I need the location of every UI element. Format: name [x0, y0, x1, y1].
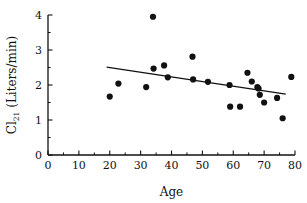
data-point — [161, 62, 167, 68]
data-point — [280, 115, 286, 121]
data-point — [237, 104, 243, 110]
plot-canvas: 0102030405060708001234AgeCl21 (Liters/mi… — [0, 0, 307, 203]
x-tick-label-0: 0 — [45, 159, 52, 172]
x-tick-label-50: 50 — [195, 159, 209, 172]
y-tick-label-4: 4 — [35, 9, 42, 22]
x-tick-label-10: 10 — [72, 159, 86, 172]
data-point — [190, 76, 196, 82]
data-point — [244, 70, 250, 76]
x-tick-label-60: 60 — [226, 159, 240, 172]
data-point — [257, 92, 263, 98]
data-point — [288, 74, 294, 80]
y-axis-label: Cl21 (Liters/min) — [5, 36, 21, 134]
data-point — [205, 79, 211, 85]
data-point — [143, 84, 149, 90]
x-tick-label-20: 20 — [103, 159, 117, 172]
x-tick-label-80: 80 — [288, 159, 302, 172]
data-point — [226, 82, 232, 88]
data-point — [115, 81, 121, 87]
x-tick-label-30: 30 — [134, 159, 148, 172]
svg-text:Cl21 (Liters/min): Cl21 (Liters/min) — [5, 36, 21, 134]
x-axis-label: Age — [159, 185, 183, 199]
y-tick-label-1: 1 — [35, 114, 42, 127]
x-tick-label-70: 70 — [257, 159, 271, 172]
y-tick-label-3: 3 — [35, 44, 42, 57]
data-point — [107, 93, 113, 99]
data-point — [189, 54, 195, 60]
data-point — [150, 65, 156, 71]
x-tick-label-40: 40 — [165, 159, 179, 172]
data-point — [227, 104, 233, 110]
data-point — [150, 14, 156, 20]
data-point — [274, 95, 280, 101]
scatter-plot-figure: 0102030405060708001234AgeCl21 (Liters/mi… — [0, 0, 307, 203]
data-point — [249, 78, 255, 84]
y-tick-label-2: 2 — [35, 79, 42, 92]
data-point — [165, 74, 171, 80]
y-tick-label-0: 0 — [35, 149, 42, 162]
data-point — [255, 85, 261, 91]
data-point — [261, 99, 267, 105]
